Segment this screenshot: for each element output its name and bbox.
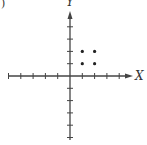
data-points bbox=[81, 50, 96, 66]
axes bbox=[8, 11, 133, 140]
x-axis-label: X bbox=[134, 69, 144, 83]
coordinate-plane: ) X Y bbox=[0, 0, 147, 145]
panel-label: ) bbox=[1, 0, 5, 10]
data-point bbox=[81, 62, 84, 65]
tick-marks bbox=[9, 27, 120, 138]
y-axis-label: Y bbox=[66, 0, 75, 9]
data-point bbox=[81, 50, 84, 53]
data-point bbox=[93, 50, 96, 53]
y-axis-arrow-icon bbox=[68, 11, 73, 19]
x-axis-arrow-icon bbox=[125, 74, 133, 79]
data-point bbox=[93, 62, 96, 65]
